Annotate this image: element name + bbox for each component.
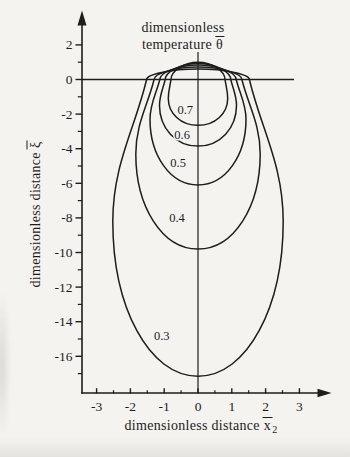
contour-plot-canvas: 20-2-4-6-8-10-12-14-16-3-2-10123 0.70.60… bbox=[0, 0, 350, 457]
y-tick-label: -8 bbox=[61, 210, 72, 225]
y-tick-label: -4 bbox=[61, 141, 72, 156]
contour-value-label-0.7: 0.7 bbox=[177, 103, 193, 117]
chart-title-line2: temperatureθ bbox=[141, 36, 224, 53]
contour-value-label-0.4: 0.4 bbox=[169, 211, 185, 225]
x-tick-label: -2 bbox=[125, 399, 136, 414]
xi-bar-symbol: ξ bbox=[27, 141, 44, 150]
x-tick-label: -1 bbox=[159, 399, 170, 414]
x-axis-arrow-icon bbox=[318, 389, 332, 398]
chart-title-line1: dimensionless bbox=[141, 19, 224, 36]
y-tick-label: -12 bbox=[55, 280, 73, 295]
ticks-group bbox=[76, 45, 300, 394]
y-tick-label: -10 bbox=[55, 245, 73, 260]
x-bar-symbol: x bbox=[263, 417, 272, 434]
x-tick-label: 2 bbox=[262, 399, 269, 414]
x-tick-label: -3 bbox=[91, 399, 102, 414]
tick-labels-group: 20-2-4-6-8-10-12-14-16-3-2-10123 bbox=[55, 37, 304, 414]
y-tick-label: 0 bbox=[66, 72, 73, 87]
contour-value-label-0.6: 0.6 bbox=[174, 128, 190, 142]
y-axis-title: dimensionless distanceξ bbox=[27, 141, 44, 288]
x-tick-label: 3 bbox=[296, 399, 303, 414]
theta-bar-symbol: θ bbox=[215, 36, 224, 53]
y-axis-arrow-icon bbox=[78, 11, 87, 26]
x-subscript: 2 bbox=[272, 424, 277, 435]
y-tick-label: -6 bbox=[61, 176, 72, 191]
contour-labels-group: 0.70.60.50.40.3 bbox=[154, 103, 193, 343]
x-tick-label: 0 bbox=[195, 399, 202, 414]
x-tick-label: 1 bbox=[228, 399, 235, 414]
x-axis-title: dimensionless distancex2 bbox=[125, 417, 278, 435]
y-tick-label: -14 bbox=[55, 314, 73, 329]
contour-value-label-0.5: 0.5 bbox=[170, 156, 186, 170]
y-tick-label: -16 bbox=[55, 349, 73, 364]
y-tick-label: 2 bbox=[66, 37, 73, 52]
contour-value-label-0.3: 0.3 bbox=[154, 329, 170, 343]
contour-figure: 20-2-4-6-8-10-12-14-16-3-2-10123 0.70.60… bbox=[0, 0, 350, 457]
chart-title: dimensionless temperatureθ bbox=[141, 19, 224, 53]
y-tick-label: -2 bbox=[61, 107, 72, 122]
